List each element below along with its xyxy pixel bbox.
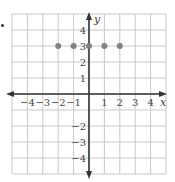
x-tick-label: 3 [132,97,138,108]
axes [6,12,167,179]
y-tick-label: 3 [80,41,86,52]
y-axis-up-arrow-icon [86,12,92,20]
y-tick-label: −2 [71,121,86,132]
y-tick-label: −3 [71,137,86,148]
x-axis-left-arrow-icon [6,91,14,97]
data-point [101,43,107,49]
x-tick-label: 1 [101,97,107,108]
data-point [71,43,77,49]
y-tick-label: 4 [80,25,86,36]
y-tick-label: 2 [80,57,86,68]
x-tick-label: −4 [20,97,35,108]
x-tick-label: −1 [66,97,81,108]
y-tick-label: −4 [71,153,86,164]
data-point [55,43,61,49]
x-tick-label: −2 [51,97,66,108]
data-point [117,43,123,49]
coordinate-plane: −4−3−2−112344321−2−3−4 x y [0,0,175,182]
y-axis-down-arrow-icon [86,171,92,179]
x-tick-label: 2 [117,97,123,108]
x-tick-label: 4 [147,97,153,108]
x-axis-label: x [160,96,167,109]
y-tick-label: 1 [80,73,86,84]
data-point [86,43,92,49]
y-axis-label: y [93,13,101,26]
x-tick-label: −3 [35,97,50,108]
